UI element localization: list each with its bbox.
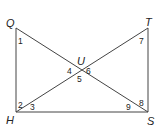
angle-label-9: 9 [126, 102, 131, 112]
point-label-Q: Q [6, 17, 15, 29]
point-label-T: T [145, 16, 153, 28]
angle-label-3: 3 [30, 102, 35, 112]
angle-label-5: 5 [77, 74, 82, 84]
angle-label-7: 7 [139, 36, 144, 46]
angle-label-6: 6 [86, 66, 91, 76]
angle-label-8: 8 [139, 98, 144, 108]
angle-label-4: 4 [67, 66, 72, 76]
angle-label-2: 2 [18, 100, 23, 110]
geometry-diagram: Q T H S U 1 2 3 4 5 6 7 8 9 [0, 0, 162, 131]
point-label-S: S [147, 115, 155, 127]
point-label-U: U [77, 55, 85, 67]
point-label-H: H [6, 114, 14, 126]
angle-label-1: 1 [18, 36, 23, 46]
